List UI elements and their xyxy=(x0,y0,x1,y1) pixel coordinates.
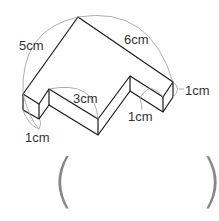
label-5cm: 5cm xyxy=(19,38,44,53)
prism-figure: 5cm 6cm 3cm 1cm 1cm 1cm ( ) xyxy=(0,0,219,221)
answer-right-paren: ) xyxy=(200,147,219,215)
label-left-1cm: 1cm xyxy=(25,130,50,145)
label-right-depth-1cm: 1cm xyxy=(128,109,153,124)
arc-left-1cm xyxy=(23,110,41,129)
label-right-height-1cm: 1cm xyxy=(185,83,210,98)
label-3cm: 3cm xyxy=(73,91,98,106)
answer-left-paren: ( xyxy=(52,147,75,215)
arc-right-height-1cm xyxy=(173,82,178,97)
label-6cm: 6cm xyxy=(124,32,149,47)
